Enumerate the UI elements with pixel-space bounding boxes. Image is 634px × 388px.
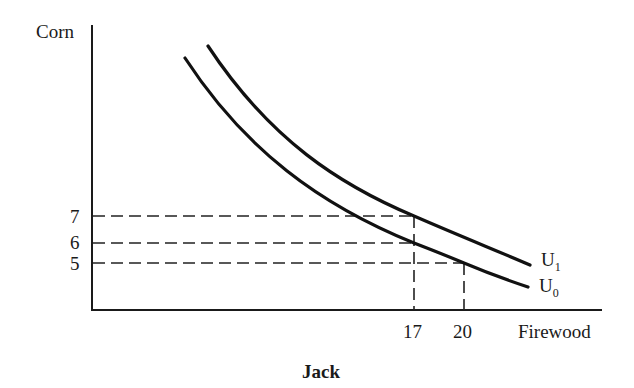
curve-label-u0: U0 [539,275,559,300]
y-tick-5: 5 [70,253,80,274]
indifference-curve-chart: Corn 7 6 5 17 20 Firewood U1 U0 Jack [0,0,634,388]
x-axis-label: Firewood [518,321,591,342]
curve-label-u0-main: U [539,275,553,296]
curve-label-u1: U1 [541,249,561,274]
y-axis-label: Corn [36,21,75,42]
x-tick-17: 17 [403,321,422,342]
y-tick-7: 7 [70,206,80,227]
indifference-curve-u0 [185,58,528,287]
x-tick-20: 20 [453,321,472,342]
indifference-curve-u1 [208,46,530,265]
y-tick-6: 6 [70,232,80,253]
chart-caption: Jack [302,361,340,382]
curve-label-u0-sub: 0 [553,286,559,300]
curve-label-u1-main: U [541,249,555,270]
curve-label-u1-sub: 1 [555,260,561,274]
